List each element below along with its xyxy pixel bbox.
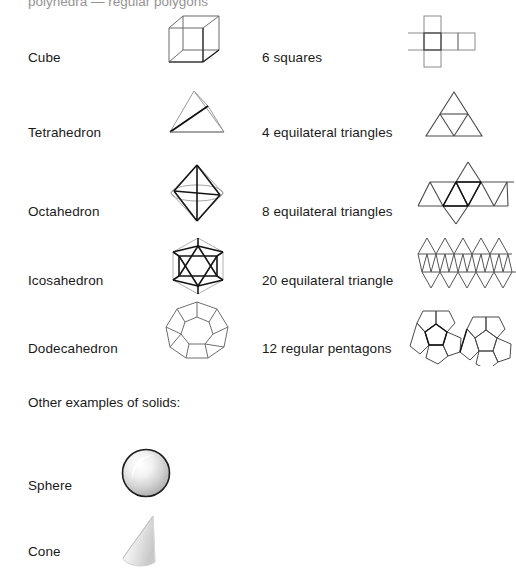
table-row: Icosahedron 20 eq [0, 234, 516, 300]
solid-name-label: Dodecahedron [28, 341, 118, 356]
faces-description-label: 6 squares [262, 50, 322, 65]
list-item: Cone [0, 508, 516, 574]
faces-description-label: 4 equilateral triangles [262, 125, 393, 140]
table-row: Tetrahedron 4 equilateral triangles [0, 80, 516, 158]
icosahedron-wireframe-icon [167, 236, 229, 296]
dodecahedron-wireframe-icon [162, 300, 232, 362]
table-row: Cube 6 squares [0, 0, 516, 80]
solid-name-label: Tetrahedron [28, 125, 101, 140]
tetrahedron-wireframe-icon [166, 88, 228, 140]
solid-name-label: Icosahedron [28, 273, 103, 288]
faces-description-label: 12 regular pentagons [262, 341, 392, 356]
octahedron-net-icon [410, 160, 516, 226]
solid-name-label: Cube [28, 50, 61, 65]
table-row: Dodecahedron 12 regular pentagons [0, 298, 516, 370]
dodecahedron-net-icon [406, 302, 516, 366]
sphere-shaded-icon [119, 446, 173, 500]
faces-description-label: 8 equilateral triangles [262, 204, 393, 219]
list-item: Sphere [0, 440, 516, 502]
page-root: { "document": { "clipped_header": "polyh… [0, 0, 516, 584]
cone-shaded-icon [119, 510, 171, 568]
solid-name-label: Cone [28, 544, 61, 559]
icosahedron-net-icon [416, 236, 516, 292]
faces-description-label: 20 equilateral triangle [262, 273, 393, 288]
table-row: Octahedron 8 equilateral triangles [0, 158, 516, 234]
cube-wireframe-icon [163, 12, 227, 68]
tetrahedron-net-icon [420, 88, 492, 140]
cube-net-icon [408, 12, 488, 68]
solid-name-label: Sphere [28, 478, 72, 493]
octahedron-wireframe-icon [166, 162, 228, 224]
section-heading: Other examples of solids: [28, 395, 180, 410]
solid-name-label: Octahedron [28, 204, 100, 219]
